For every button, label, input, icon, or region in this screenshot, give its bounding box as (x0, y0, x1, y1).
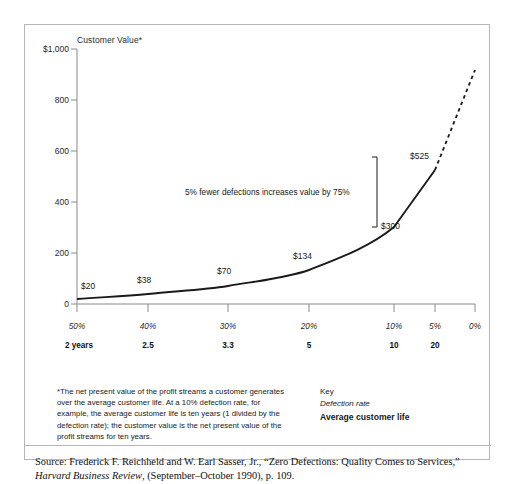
y-tick-marks (71, 49, 77, 304)
key-defection-rate: Defection rate (320, 398, 409, 410)
life-label-20: 20 (430, 341, 439, 350)
x-tick-label-20pct: 20% (301, 322, 317, 331)
point-label-300: $300 (381, 221, 400, 231)
source-citation: Source: Frederick F. Reichheld and W. Ea… (35, 455, 485, 484)
x-tick-label-0pct: 0% (469, 322, 481, 331)
annotation-text: 5% fewer defections increases value by 7… (185, 187, 350, 197)
source-suffix: , (September–October 1990), p. 109. (142, 470, 294, 481)
point-label-525: $525 (410, 151, 429, 161)
y-tick-label-1000: $1,000 (25, 44, 69, 54)
source-divider (25, 445, 491, 446)
x-tick-label-50pct: 50% (69, 322, 85, 331)
key-title: Key (320, 386, 409, 398)
point-label-20: $20 (81, 281, 95, 291)
footnote-text: *The net present value of the profit str… (57, 386, 289, 442)
point-label-38: $38 (137, 275, 151, 285)
x-tick-label-30pct: 30% (220, 322, 236, 331)
y-tick-label-200: 200 (25, 248, 69, 258)
figure-frame: Customer Value* $1,000 800 600 400 200 0… (24, 24, 490, 460)
source-prefix: Source: Frederick F. Reichheld and W. Ea… (35, 456, 460, 467)
life-label-2-5: 2.5 (142, 341, 153, 350)
y-tick-label-0: 0 (25, 299, 69, 309)
y-tick-label-600: 600 (25, 146, 69, 156)
y-tick-label-800: 800 (25, 95, 69, 105)
life-label-10: 10 (389, 341, 398, 350)
source-journal-title: Harvard Business Review (35, 470, 142, 481)
chart-plot-area: Customer Value* $1,000 800 600 400 200 0… (25, 25, 491, 349)
life-label-5: 5 (307, 341, 312, 350)
y-tick-label-400: 400 (25, 197, 69, 207)
x-tick-marks (77, 304, 475, 312)
key-block: Key Defection rate Average customer life (320, 386, 409, 423)
x-tick-label-5pct: 5% (429, 322, 441, 331)
x-tick-label-10pct: 10% (386, 322, 402, 331)
life-label-2years: 2 years (65, 341, 93, 350)
life-label-3-3: 3.3 (222, 341, 233, 350)
x-tick-label-40pct: 40% (140, 322, 156, 331)
extrapolation-dashed-line (435, 70, 475, 170)
annotation-bracket (372, 157, 377, 227)
point-label-134: $134 (293, 251, 312, 261)
point-label-70: $70 (217, 266, 231, 276)
y-axis-title: Customer Value* (77, 35, 142, 45)
key-average-customer-life: Average customer life (320, 411, 409, 423)
